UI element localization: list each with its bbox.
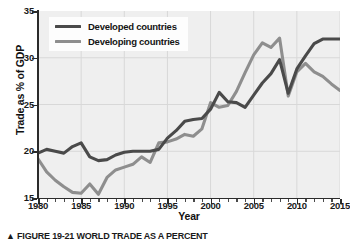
legend-item-developed: Developed countries [55,21,180,32]
x-tick-minor-1991 [133,199,134,202]
figure-world-trade: 3530252015 19801985199019952000200520102… [0,0,350,240]
x-tick-minor-2013 [323,199,324,202]
chart-legend: Developed countries Developing countries [49,17,188,51]
x-tick-minor-2012 [314,199,315,202]
series-lines [38,38,340,194]
x-axis-title: Year [38,210,340,222]
legend-swatch-developed [55,25,81,28]
x-tick-minor-2008 [280,199,281,202]
x-tick-minor-2007 [271,199,272,202]
x-tick-minor-1983 [64,199,65,202]
legend-item-developing: Developing countries [55,36,180,47]
x-tick-minor-1982 [55,199,56,202]
x-tick-minor-2003 [236,199,237,202]
x-tick-minor-1988 [107,199,108,202]
x-tick-minor-1992 [142,199,143,202]
caption-text: FIGURE 19-21 WORLD TRADE AS A PERCENT [17,231,208,240]
x-tick-minor-1993 [150,199,151,202]
series-line-developing [38,38,340,194]
x-tick-minor-2001 [219,199,220,202]
y-tick-mark-30 [32,58,37,60]
figure-caption: ▲ FIGURE 19-21 WORLD TRADE AS A PERCENT [6,231,350,240]
y-tick-mark-20 [32,151,37,153]
x-tick-minor-1996 [176,199,177,202]
legend-swatch-developing [55,40,81,43]
y-tick-label-35: 35 [0,5,34,16]
y-axis-line [37,10,39,199]
x-tick-minor-1987 [98,199,99,202]
legend-label-developing: Developing countries [88,36,180,47]
y-axis-title: Trade as % of GDP [14,20,26,160]
x-tick-minor-1997 [185,199,186,202]
legend-label-developed: Developed countries [88,21,177,32]
y-tick-mark-25 [32,105,37,107]
x-tick-minor-1986 [90,199,91,202]
x-tick-minor-2006 [262,199,263,202]
x-tick-minor-1981 [47,199,48,202]
x-tick-minor-1998 [193,199,194,202]
caption-triangle-icon: ▲ [6,231,15,240]
y-tick-mark-35 [32,11,37,13]
x-tick-minor-2002 [228,199,229,202]
x-tick-minor-2011 [305,199,306,202]
